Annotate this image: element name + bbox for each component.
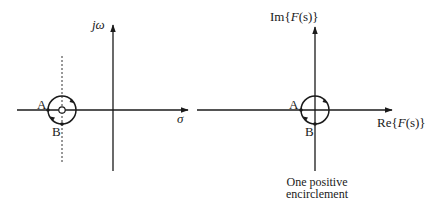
point-a-label: A [289,98,298,111]
im-fn: F [291,9,299,24]
re-suffix: } [419,115,425,130]
caption-line-2: encirclement [277,188,357,200]
zero-marker [59,107,65,113]
point-a-dot [299,108,303,112]
im-arg: (s) [299,9,313,24]
jw-axis-label: jω [92,18,105,31]
im-prefix: Im{ [270,9,291,24]
nyquist-mapping-diagram [0,0,437,210]
re-arg: (s) [406,115,420,130]
re-fn: F [398,115,406,130]
encirclement-caption: One positive encirclement [277,176,357,200]
re-prefix: Re{ [377,115,398,130]
im-suffix: } [312,9,318,24]
im-axis-label: Im{F(s)} [270,10,319,23]
point-a-label: A [37,98,46,111]
point-b-label: B [52,125,61,138]
sigma-axis-label: σ [177,112,183,125]
point-a-dot [46,108,50,112]
point-b-label: B [305,125,314,138]
re-axis-label: Re{F(s)} [377,116,426,129]
